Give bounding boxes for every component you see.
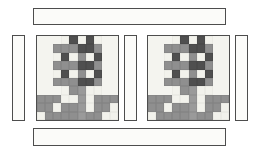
patch-r3-c1 [148,53,156,61]
patch-r9-c5 [69,103,77,111]
patch-r7-c7 [86,86,94,94]
patch-r3-c2 [45,53,53,61]
patch-r10-c10 [110,112,118,120]
patch-r8-c6 [78,95,86,103]
patch-r5-c6 [189,70,197,78]
patch-r6-c2 [156,78,164,86]
patch-r1-c6 [189,36,197,44]
patch-r7-c8 [205,86,213,94]
patch-r10-c2 [45,112,53,120]
patch-r9-c4 [172,103,180,111]
patch-r5-c9 [213,70,221,78]
patch-r4-c3 [164,61,172,69]
patch-r10-c2 [156,112,164,120]
patch-r3-c10 [221,53,229,61]
patch-r9-c10 [221,103,229,111]
patch-r10-c8 [94,112,102,120]
patch-r7-c4 [172,86,180,94]
patch-r7-c2 [156,86,164,94]
patch-r5-c5 [180,70,188,78]
patch-r8-c7 [197,95,205,103]
patch-r7-c3 [53,86,61,94]
patch-r1-c9 [102,36,110,44]
patch-r7-c9 [213,86,221,94]
patch-r1-c3 [164,36,172,44]
patch-r9-c10 [110,103,118,111]
block-patch-grid [37,36,118,120]
patch-r8-c3 [53,95,61,103]
patch-r5-c2 [156,70,164,78]
patch-r7-c7 [197,86,205,94]
patch-r2-c7 [86,44,94,52]
patch-r1-c10 [110,36,118,44]
patch-r3-c2 [156,53,164,61]
patch-r3-c10 [110,53,118,61]
middle-vertical-sashing [124,35,137,121]
patch-r10-c10 [221,112,229,120]
patch-r6-c7 [197,78,205,86]
patch-r4-c4 [172,61,180,69]
patch-r8-c1 [148,95,156,103]
patch-r5-c9 [102,70,110,78]
patch-r4-c5 [180,61,188,69]
patch-r8-c3 [164,95,172,103]
patch-r2-c8 [205,44,213,52]
patch-r1-c7 [197,36,205,44]
patch-r10-c7 [86,112,94,120]
patch-r3-c4 [172,53,180,61]
patch-r5-c2 [45,70,53,78]
patch-r4-c1 [37,61,45,69]
patch-r7-c10 [221,86,229,94]
patch-r2-c7 [197,44,205,52]
patch-r4-c7 [86,61,94,69]
patch-r9-c7 [86,103,94,111]
patch-r8-c10 [110,95,118,103]
patch-r3-c1 [37,53,45,61]
patch-r1-c3 [53,36,61,44]
patch-r1-c9 [213,36,221,44]
patch-r10-c3 [164,112,172,120]
patch-r3-c6 [78,53,86,61]
patch-r2-c8 [94,44,102,52]
patch-r6-c7 [86,78,94,86]
patch-r10-c7 [197,112,205,120]
patch-r5-c7 [197,70,205,78]
patch-r10-c5 [180,112,188,120]
patch-r4-c8 [94,61,102,69]
patch-r10-c8 [205,112,213,120]
patch-r7-c1 [148,86,156,94]
patch-r9-c2 [45,103,53,111]
patch-r7-c1 [37,86,45,94]
patch-r2-c10 [110,44,118,52]
patch-r6-c9 [213,78,221,86]
patch-r1-c6 [78,36,86,44]
patch-r1-c5 [180,36,188,44]
patch-r4-c2 [156,61,164,69]
patch-r4-c7 [197,61,205,69]
patch-r10-c6 [189,112,197,120]
patch-r4-c1 [148,61,156,69]
patch-r3-c9 [213,53,221,61]
quilt-layout [0,0,259,157]
patch-r3-c3 [164,53,172,61]
patch-r10-c9 [102,112,110,120]
patch-r8-c7 [86,95,94,103]
patch-r5-c1 [37,70,45,78]
patch-r2-c2 [45,44,53,52]
patch-r5-c8 [205,70,213,78]
patch-r7-c5 [180,86,188,94]
patch-r9-c3 [164,103,172,111]
patch-r3-c9 [102,53,110,61]
patch-r3-c8 [205,53,213,61]
patch-r1-c4 [61,36,69,44]
patch-r6-c1 [37,78,45,86]
patch-r6-c3 [53,78,61,86]
patch-r7-c8 [94,86,102,94]
patch-r9-c4 [61,103,69,111]
patch-r4-c10 [110,61,118,69]
patch-r6-c5 [180,78,188,86]
bottom-horizontal-sashing [33,128,226,146]
patch-r10-c1 [148,112,156,120]
patch-r7-c2 [45,86,53,94]
patch-r4-c9 [213,61,221,69]
